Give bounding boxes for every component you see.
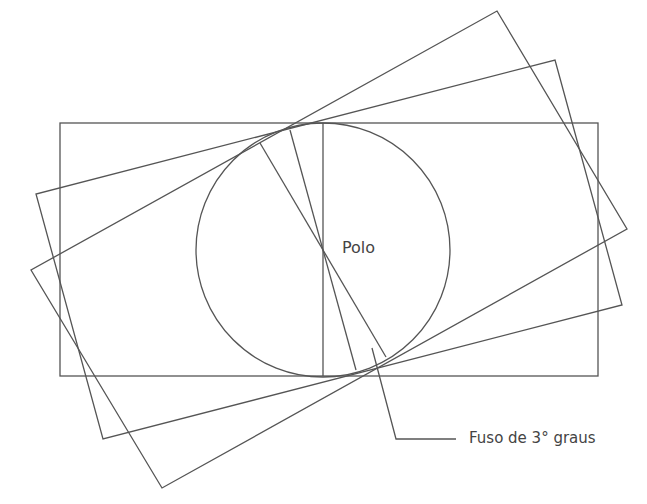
- rotated-rectangle-a: [31, 11, 627, 488]
- axis-aligned-rectangle: [60, 123, 598, 376]
- rotated-rectangle-b: [36, 60, 622, 439]
- zone-label: Fuso de 3° graus: [469, 429, 596, 447]
- pole-label: Polo: [342, 238, 375, 257]
